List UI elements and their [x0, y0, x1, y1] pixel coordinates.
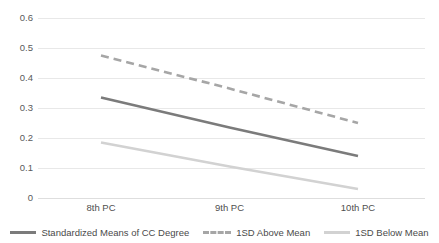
- y-axis-tick-label: 0.6: [3, 13, 33, 23]
- legend-item[interactable]: Standardized Means of CC Degree: [10, 227, 189, 238]
- gridline: [38, 138, 425, 139]
- chart-legend: Standardized Means of CC Degree1SD Above…: [0, 224, 439, 240]
- line-chart: 00.10.20.30.40.50.6 8th PC9th PC10th PC …: [0, 0, 439, 243]
- gridline: [38, 78, 425, 79]
- legend-item-label: Standardized Means of CC Degree: [41, 227, 189, 238]
- legend-line-icon: [10, 231, 36, 234]
- x-axis: 8th PC9th PC10th PC: [0, 202, 439, 218]
- x-axis-tick-label: 9th PC: [215, 202, 244, 214]
- gridline: [38, 198, 425, 199]
- gridline: [38, 48, 425, 49]
- legend-line-icon: [324, 231, 350, 234]
- y-axis-tick-label: 0.2: [3, 133, 33, 143]
- legend-item-label: 1SD Below Mean: [355, 227, 428, 238]
- y-axis-tick-label: 0.5: [3, 43, 33, 53]
- x-axis-tick-label: 8th PC: [86, 202, 115, 214]
- gridline: [38, 168, 425, 169]
- x-axis-tick-label: 10th PC: [341, 202, 375, 214]
- y-axis-tick-label: 0.1: [3, 163, 33, 173]
- legend-item[interactable]: 1SD Below Mean: [324, 227, 428, 238]
- y-axis: 00.10.20.30.40.50.6: [0, 18, 33, 198]
- y-axis-tick-label: 0.4: [3, 73, 33, 83]
- gridline: [38, 18, 425, 19]
- y-axis-tick-label: 0.3: [3, 103, 33, 113]
- legend-item[interactable]: 1SD Above Mean: [203, 227, 310, 238]
- plot-area: [38, 18, 425, 198]
- legend-item-label: 1SD Above Mean: [236, 227, 310, 238]
- gridline: [38, 108, 425, 109]
- legend-line-icon: [203, 231, 231, 234]
